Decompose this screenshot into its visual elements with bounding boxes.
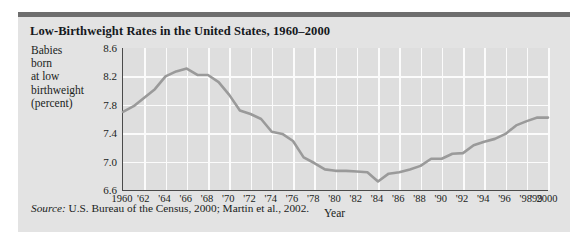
data-series-line — [123, 69, 548, 182]
y-axis-title: Babies born at low birthweight (percent) — [31, 44, 84, 110]
x-axis-tick-label: '90 — [435, 193, 447, 204]
x-axis-tick-label: '86 — [392, 193, 404, 204]
y-axis-tick-label: 8.6 — [103, 42, 117, 54]
x-axis-tick-label: '84 — [371, 193, 383, 204]
x-axis-tick-label: 2000 — [537, 193, 558, 204]
y-axis-title-line: (percent) — [31, 97, 84, 110]
figure-panel: Low-Birthweight Rates in the United Stat… — [18, 12, 570, 232]
data-line-chart — [123, 48, 548, 190]
y-axis-tick-label: 7.0 — [103, 156, 117, 168]
gridline-vertical — [548, 48, 550, 190]
plot-area — [122, 48, 548, 191]
top-rule-divider — [18, 12, 570, 17]
y-axis-tick-label: 8.2 — [103, 70, 117, 82]
x-axis-tick-label: '94 — [477, 193, 489, 204]
source-note: Source: U.S. Bureau of the Census, 2000;… — [31, 202, 309, 214]
y-axis-title-line: Babies — [31, 44, 84, 57]
x-axis-tick-label: '92 — [456, 193, 468, 204]
y-axis-tick-label: 7.8 — [103, 99, 117, 111]
plot-region: 8.68.27.87.47.06.6 1960'62'64'66'68'70'7… — [122, 48, 547, 190]
x-axis-title: Year — [324, 207, 345, 219]
y-axis-title-line: born — [31, 57, 84, 70]
x-axis-tick-label: '80 — [328, 193, 340, 204]
y-axis-title-line: birthweight — [31, 84, 84, 97]
y-axis-tick-label: 7.4 — [103, 127, 117, 139]
x-axis-tick-label: '88 — [413, 193, 425, 204]
y-axis-title-line: at low — [31, 70, 84, 83]
chart-title: Low-Birthweight Rates in the United Stat… — [30, 24, 330, 39]
x-axis-tick-label: '82 — [350, 193, 362, 204]
x-axis-tick-label: '96 — [498, 193, 510, 204]
source-label: Source: — [31, 202, 66, 214]
source-citation: U.S. Bureau of the Census, 2000; Martin … — [66, 202, 309, 214]
